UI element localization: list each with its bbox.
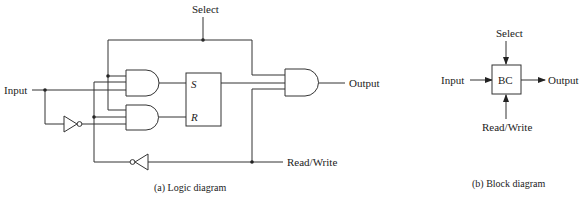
input-to-inverter — [45, 90, 64, 124]
logic-diagram: Select Input S R — [4, 3, 380, 194]
block-diagram: Select Input BC Output Read/Write (b) Bl… — [441, 27, 579, 190]
rw-junction-2 — [250, 160, 254, 164]
inverter-input — [64, 116, 82, 132]
logic-diagram-caption: (a) Logic diagram — [154, 182, 226, 194]
binary-cell-figure: Select Input S R — [0, 0, 582, 199]
rw-inverted-bus — [94, 82, 126, 162]
r-label: R — [190, 111, 198, 123]
inverter-read-write — [130, 154, 148, 170]
output-label: Output — [349, 77, 380, 89]
and-gate-2 — [126, 105, 158, 130]
block-input-label: Input — [441, 74, 464, 86]
bc-label: BC — [498, 74, 513, 86]
input-label: Input — [4, 84, 27, 96]
s-label: S — [191, 78, 197, 90]
select-label: Select — [192, 3, 219, 15]
and-gate-1 — [126, 70, 159, 96]
read-write-label: Read/Write — [287, 156, 337, 168]
block-rw-label: Read/Write — [482, 121, 532, 133]
block-diagram-caption: (b) Block diagram — [472, 178, 546, 190]
block-output-label: Output — [548, 74, 579, 86]
and-gate-output — [285, 69, 319, 96]
block-select-label: Select — [496, 27, 523, 39]
rw-to-output-and — [252, 89, 285, 162]
